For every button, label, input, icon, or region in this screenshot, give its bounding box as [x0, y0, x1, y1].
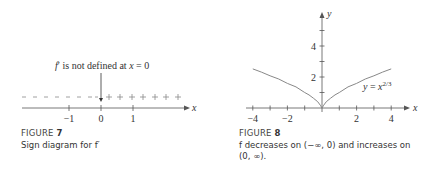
tick-label-0: 0 — [99, 113, 104, 124]
curve-label: y = x2/3 — [362, 80, 392, 92]
y-axis-label: y — [326, 8, 332, 19]
tick-label-1: 1 — [131, 113, 136, 124]
arrow-head-icon — [99, 98, 103, 102]
figure-number: 7 — [57, 128, 63, 138]
x-axis-arrow-icon — [404, 106, 410, 111]
x-axis-label: x — [191, 102, 197, 113]
x-tick-label-4: 4 — [389, 113, 394, 124]
figure-8-caption: f decreases on (−∞, 0) and increases on … — [239, 140, 410, 162]
x-axis-label: x — [412, 102, 418, 113]
x-tick-label-2: 2 — [354, 113, 359, 124]
y-tick-label-4: 4 — [311, 41, 316, 52]
x-tick-label-neg4: −4 — [247, 113, 258, 124]
figure-label-prefix: FIGURE — [239, 128, 272, 138]
tick-label-neg1: −1 — [64, 113, 75, 124]
figure-label-prefix: FIGURE — [21, 128, 54, 138]
caption-line-1: f decreases on (−∞, 0) and increases on — [239, 140, 410, 151]
positive-signs — [106, 94, 181, 100]
figure-8-label: FIGURE 8 — [239, 128, 281, 138]
y-tick-label-2: 2 — [311, 72, 316, 83]
figure-number: 8 — [275, 128, 281, 138]
x-tick-label-neg2: −2 — [282, 113, 293, 124]
figure-7-label: FIGURE 7 — [21, 128, 63, 138]
x-axis-arrow-icon — [184, 106, 190, 111]
caption-line-2: (0, ∞). — [239, 151, 410, 162]
figure-7: f′ is not defined at x = 0 — [0, 0, 220, 171]
y-axis-arrow-icon — [320, 12, 325, 18]
figure-8: x y −4 −2 2 4 2 4 — [220, 0, 438, 171]
annotation-text: f′ is not defined at x = 0 — [55, 60, 149, 71]
figure-7-caption: Sign diagram for f′ — [21, 140, 100, 151]
